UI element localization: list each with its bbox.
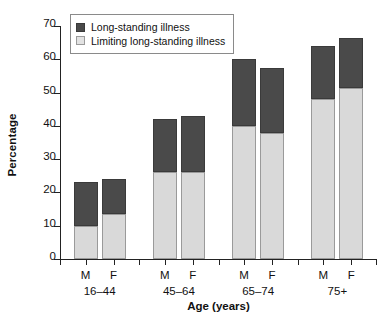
y-axis-tick-label: 50: [26, 85, 56, 97]
legend-swatch-dark-icon: [76, 23, 85, 32]
x-axis-group-label: 75+: [297, 286, 377, 298]
x-axis-tick-mark: [193, 260, 194, 265]
y-axis-tick-label: 70: [26, 18, 56, 30]
x-axis-group-label: 45–64: [139, 286, 219, 298]
x-axis-tick-mark: [165, 260, 166, 265]
y-axis-tick-label: 20: [26, 184, 56, 196]
bar-segment-limiting-long-standing-illness: [102, 214, 126, 259]
x-axis-group-label: 16–44: [60, 286, 140, 298]
bar-segment-long-standing-illness: [339, 38, 363, 88]
x-axis-title: Age (years): [60, 300, 377, 312]
x-axis-sex-label: F: [331, 270, 371, 282]
bar: [260, 68, 284, 259]
x-axis-tick-mark: [86, 260, 87, 265]
x-axis-group-boundary-tick: [298, 260, 299, 265]
bar: [181, 116, 205, 259]
x-axis-group-boundary-tick: [139, 260, 140, 265]
y-axis-title-text: Percentage: [5, 113, 17, 176]
y-axis-line: [60, 26, 61, 260]
y-axis-title: Percentage: [0, 0, 22, 290]
y-axis-tick-label: 0: [26, 251, 56, 263]
bar-segment-long-standing-illness: [232, 59, 256, 126]
x-axis-group-boundary-tick: [376, 260, 377, 265]
bar-segment-limiting-long-standing-illness: [260, 133, 284, 259]
x-axis-tick-mark: [351, 260, 352, 265]
y-axis-tick-label: 10: [26, 218, 56, 230]
bar-segment-limiting-long-standing-illness: [153, 172, 177, 259]
bar-segment-long-standing-illness: [153, 119, 177, 172]
y-axis-tick-label: 30: [26, 151, 56, 163]
bar-segment-long-standing-illness: [74, 182, 98, 225]
bar-segment-limiting-long-standing-illness: [311, 99, 335, 259]
legend-label: Limiting long-standing illness: [91, 36, 225, 47]
x-axis-sex-label: F: [252, 270, 292, 282]
x-axis-group-boundary-tick: [60, 260, 61, 265]
x-axis-tick-mark: [323, 260, 324, 265]
bar-segment-long-standing-illness: [181, 116, 205, 173]
plot-area: 010203040506070: [60, 26, 377, 260]
bar-segment-long-standing-illness: [311, 46, 335, 99]
y-axis-tick-label: 40: [26, 118, 56, 130]
y-axis-tick-label: 60: [26, 51, 56, 63]
bar-segment-limiting-long-standing-illness: [74, 226, 98, 259]
bar: [232, 59, 256, 259]
bar: [102, 179, 126, 259]
x-axis-sex-label: F: [94, 270, 134, 282]
legend-swatch-light-icon: [76, 36, 85, 45]
x-axis-tick-mark: [244, 260, 245, 265]
bar: [153, 119, 177, 259]
bar-segment-limiting-long-standing-illness: [232, 126, 256, 259]
legend-item-long-standing-illness: Long-standing illness: [76, 22, 225, 33]
x-axis-sex-label: F: [173, 270, 213, 282]
legend-item-limiting-long-standing-illness: Limiting long-standing illness: [76, 36, 225, 47]
x-axis-group-boundary-tick: [219, 260, 220, 265]
bar-segment-long-standing-illness: [260, 68, 284, 133]
stacked-bar-chart: Percentage 010203040506070 MFMFMFMF16–44…: [0, 0, 392, 325]
x-axis-tick-mark: [114, 260, 115, 265]
x-axis-tick-mark: [272, 260, 273, 265]
x-axis-group-label: 65–74: [218, 286, 298, 298]
bar-segment-limiting-long-standing-illness: [181, 172, 205, 259]
bar-segment-long-standing-illness: [102, 179, 126, 214]
bar: [339, 38, 363, 259]
chart-legend: Long-standing illness Limiting long-stan…: [70, 14, 234, 54]
bar-segment-limiting-long-standing-illness: [339, 88, 363, 259]
bar: [74, 182, 98, 259]
bar: [311, 46, 335, 259]
legend-label: Long-standing illness: [91, 22, 190, 33]
